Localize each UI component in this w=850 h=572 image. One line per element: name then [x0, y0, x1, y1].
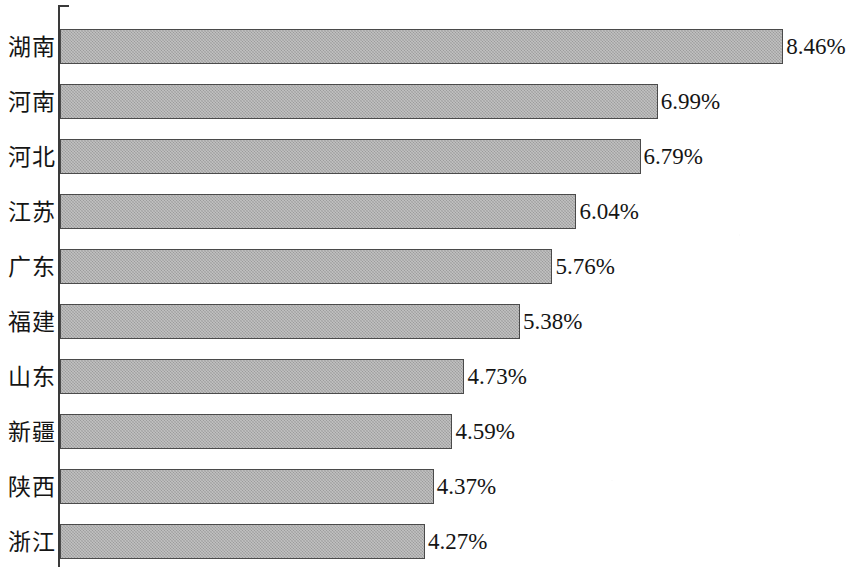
bar — [60, 249, 552, 284]
bar-row: 新疆4.59% — [0, 404, 850, 459]
bar-with-value: 4.59% — [60, 414, 515, 449]
bar — [60, 359, 464, 394]
bar-value-label: 8.46% — [786, 35, 845, 58]
bar-value-label: 4.73% — [467, 365, 526, 388]
category-label: 福建 — [8, 310, 55, 333]
bar-value-label: 6.79% — [644, 145, 703, 168]
bar-value-label: 5.76% — [555, 255, 614, 278]
bar-with-value: 4.73% — [60, 359, 527, 394]
bar-value-label: 4.37% — [437, 475, 496, 498]
category-label: 新疆 — [8, 420, 55, 443]
bar — [60, 139, 641, 174]
bar-row: 福建5.38% — [0, 294, 850, 349]
bar-row: 江苏6.04% — [0, 184, 850, 239]
category-label: 陕西 — [8, 475, 55, 498]
bar-row: 山东4.73% — [0, 349, 850, 404]
bar-chart: 湖南8.46%河南6.99%河北6.79%江苏6.04%广东5.76%福建5.3… — [0, 0, 850, 572]
bar-row: 河南6.99% — [0, 74, 850, 129]
bar — [60, 194, 576, 229]
bar-with-value: 6.79% — [60, 139, 703, 174]
category-label: 河北 — [8, 145, 55, 168]
category-label: 江苏 — [8, 200, 55, 223]
category-label: 河南 — [8, 90, 55, 113]
bar — [60, 304, 520, 339]
bar-value-label: 4.27% — [428, 530, 487, 553]
bar — [60, 84, 658, 119]
category-label: 湖南 — [8, 35, 55, 58]
bar-value-label: 4.59% — [455, 420, 514, 443]
bar-row: 湖南8.46% — [0, 19, 850, 74]
bar-with-value: 6.99% — [60, 84, 720, 119]
bar — [60, 29, 783, 64]
bar — [60, 469, 434, 504]
bar-row: 浙江4.27% — [0, 514, 850, 569]
category-label: 广东 — [8, 255, 55, 278]
bar-row: 广东5.76% — [0, 239, 850, 294]
axis-tick — [60, 5, 69, 7]
bar-value-label: 6.04% — [579, 200, 638, 223]
bar — [60, 414, 452, 449]
plot-area: 湖南8.46%河南6.99%河北6.79%江苏6.04%广东5.76%福建5.3… — [0, 0, 850, 572]
bar-value-label: 5.38% — [523, 310, 582, 333]
bar-with-value: 4.27% — [60, 524, 488, 559]
bar-row: 陕西4.37% — [0, 459, 850, 514]
bar-with-value: 5.38% — [60, 304, 582, 339]
bar-with-value: 4.37% — [60, 469, 496, 504]
category-label: 山东 — [8, 365, 55, 388]
bar-row: 河北6.79% — [0, 129, 850, 184]
bar-value-label: 6.99% — [661, 90, 720, 113]
bar-with-value: 6.04% — [60, 194, 639, 229]
bar — [60, 524, 425, 559]
bar-with-value: 5.76% — [60, 249, 615, 284]
category-label: 浙江 — [8, 530, 55, 553]
bar-with-value: 8.46% — [60, 29, 846, 64]
